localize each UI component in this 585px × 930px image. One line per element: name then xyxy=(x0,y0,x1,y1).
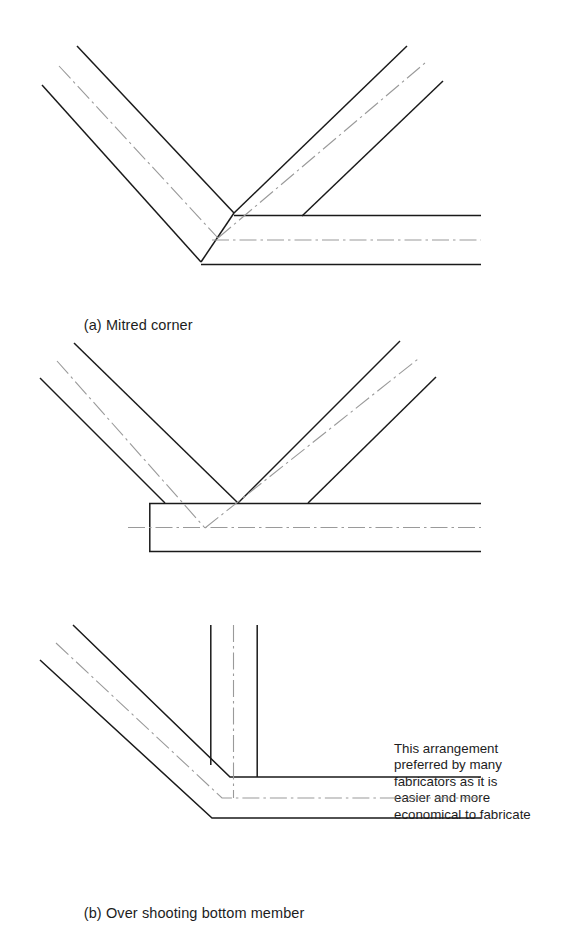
centreline-right-diagonal xyxy=(218,63,425,238)
member-right-bracing-outer-edge xyxy=(238,341,400,503)
centreline-right-bracing xyxy=(205,359,418,528)
figure-c-cranked-chord-connection: (c) RHS cranked chord connection - with … xyxy=(0,605,585,930)
member-left-bracing-outer-edge xyxy=(74,343,238,503)
centreline-cranked-chord xyxy=(56,643,481,798)
member-right-bracing-inner-edge xyxy=(308,377,436,503)
centreline-left-diagonal xyxy=(59,66,218,238)
cranked-chord-top-edge xyxy=(73,625,481,777)
figure-c-drawing xyxy=(0,605,585,930)
figure-sheet: (a) Mitred corner xyxy=(0,0,585,930)
figure-a-drawing xyxy=(0,0,585,330)
member-right-diagonal-outer-edge xyxy=(234,46,407,213)
cranked-chord-bottom-edge xyxy=(40,660,481,818)
figure-b-drawing xyxy=(0,325,585,610)
member-left-bracing-inner-edge xyxy=(40,378,165,503)
member-left-diagonal-outer-edge xyxy=(77,46,234,213)
figure-b-over-shooting-bottom-member: This arrangement preferred by many fabri… xyxy=(0,325,585,610)
member-left-diagonal-inner-edge xyxy=(42,85,201,262)
figure-a-mitred-corner: (a) Mitred corner xyxy=(0,0,585,330)
